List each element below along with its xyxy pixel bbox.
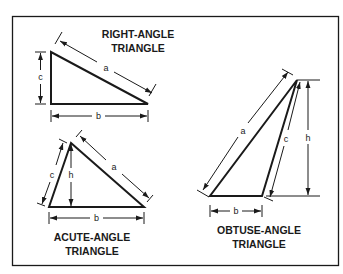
acute-side-b-label: b [94,213,99,223]
acute-side-a-label: a [111,162,116,172]
acute-angle-title-line1: ACUTE-ANGLE [54,231,130,243]
obtuse-side-c-label: c [284,134,289,144]
acute-angle-title-line2: TRIANGLE [65,245,119,257]
right-side-a-label: a [103,63,108,73]
right-side-c-label: c [38,72,43,82]
right-angle-title-line2: TRIANGLE [111,42,165,54]
obtuse-side-b-label: b [233,206,238,216]
acute-side-c-label: c [50,170,55,180]
acute-side-h-label: h [68,170,73,180]
right-side-b-label: b [96,111,101,121]
obtuse-side-a-label: a [240,126,245,136]
right-angle-title-line1: RIGHT-ANGLE [102,28,174,40]
triangle-types-diagram: c b a RIGHT-ANGLE TRIANGLE h c a [0,0,343,274]
obtuse-angle-title-line1: OBTUSE-ANGLE [217,224,301,236]
obtuse-angle-title-line2: TRIANGLE [232,238,286,250]
obtuse-side-h-label: h [305,133,310,143]
